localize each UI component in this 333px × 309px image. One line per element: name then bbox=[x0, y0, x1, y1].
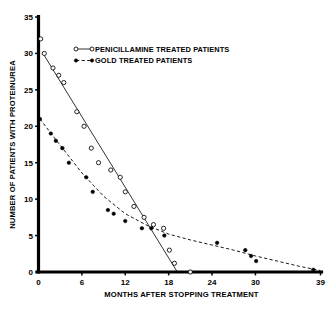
series-gold bbox=[38, 117, 320, 271]
data-point bbox=[54, 139, 58, 143]
chart-figure: 05101520253035061218243039 PENICILLAMINE… bbox=[0, 0, 333, 309]
data-point bbox=[132, 204, 136, 208]
x-tick-label: 39 bbox=[316, 278, 325, 287]
legend-item: GOLD TREATED PATIENTS bbox=[74, 56, 192, 65]
axes-layer bbox=[37, 17, 322, 273]
data-point bbox=[188, 270, 192, 274]
data-point bbox=[91, 190, 95, 194]
data-point bbox=[123, 219, 127, 223]
data-point bbox=[84, 175, 88, 179]
data-point bbox=[75, 110, 79, 114]
data-point bbox=[254, 259, 258, 263]
chart-svg: 05101520253035061218243039 PENICILLAMINE… bbox=[0, 0, 333, 309]
data-point bbox=[96, 161, 100, 165]
data-point bbox=[215, 241, 219, 245]
data-series-layer bbox=[38, 37, 320, 274]
x-tick-label: 30 bbox=[251, 278, 260, 287]
y-tick-label: 10 bbox=[24, 195, 33, 204]
data-point bbox=[163, 234, 167, 238]
x-tick-label: 6 bbox=[80, 278, 85, 287]
data-point bbox=[249, 254, 253, 258]
data-point bbox=[140, 226, 144, 230]
data-point bbox=[123, 190, 127, 194]
data-point bbox=[67, 161, 71, 165]
x-axis-title: MONTHS AFTER STOPPING TREATMENT bbox=[104, 290, 258, 299]
legend-marker bbox=[74, 59, 77, 62]
axis-titles: MONTHS AFTER STOPPING TREATMENTNUMBER OF… bbox=[8, 60, 259, 299]
data-point bbox=[61, 146, 65, 150]
series-penicillamine bbox=[39, 37, 193, 274]
axis-ticks: 05101520253035061218243039 bbox=[24, 13, 325, 287]
data-point bbox=[161, 226, 165, 230]
y-tick-label: 5 bbox=[29, 232, 34, 241]
legend-marker bbox=[90, 59, 93, 62]
legend-label: PENICILLAMINE TREATED PATIENTS bbox=[95, 45, 229, 54]
data-point bbox=[82, 124, 86, 128]
data-point bbox=[311, 268, 315, 272]
data-point bbox=[89, 146, 93, 150]
data-point bbox=[167, 248, 171, 252]
legend-label: GOLD TREATED PATIENTS bbox=[95, 56, 192, 65]
data-point bbox=[151, 223, 155, 227]
y-axis-title: NUMBER OF PATIENTS WITH PROTEINUREA bbox=[8, 60, 17, 229]
y-tick-label: 0 bbox=[29, 268, 34, 277]
y-tick-label: 35 bbox=[24, 13, 33, 22]
y-tick-label: 20 bbox=[24, 122, 33, 131]
x-tick-label: 0 bbox=[36, 278, 41, 287]
data-point bbox=[39, 37, 43, 41]
data-point bbox=[42, 51, 46, 55]
legend-item: PENICILLAMINE TREATED PATIENTS bbox=[74, 45, 229, 54]
penicillamine-fit-line bbox=[42, 52, 177, 272]
x-tick-label: 24 bbox=[208, 278, 217, 287]
data-point bbox=[62, 80, 66, 84]
data-point bbox=[57, 73, 61, 77]
y-tick-label: 15 bbox=[24, 159, 33, 168]
data-point bbox=[112, 212, 116, 216]
y-tick-label: 25 bbox=[24, 86, 33, 95]
data-point bbox=[244, 248, 248, 252]
data-point bbox=[49, 132, 53, 136]
x-tick-label: 12 bbox=[121, 278, 130, 287]
chart-legend: PENICILLAMINE TREATED PATIENTSGOLD TREAT… bbox=[74, 45, 229, 66]
x-tick-label: 18 bbox=[164, 278, 173, 287]
legend-marker bbox=[74, 47, 78, 51]
data-point bbox=[150, 226, 154, 230]
y-tick-label: 30 bbox=[24, 49, 33, 58]
data-point bbox=[142, 215, 146, 219]
data-point bbox=[106, 208, 110, 212]
data-point bbox=[172, 261, 176, 265]
legend-marker bbox=[90, 47, 94, 51]
data-point bbox=[51, 66, 55, 70]
data-point bbox=[109, 168, 113, 172]
data-point bbox=[118, 175, 122, 179]
data-point bbox=[38, 117, 42, 121]
gold-fit-curve bbox=[40, 119, 321, 271]
